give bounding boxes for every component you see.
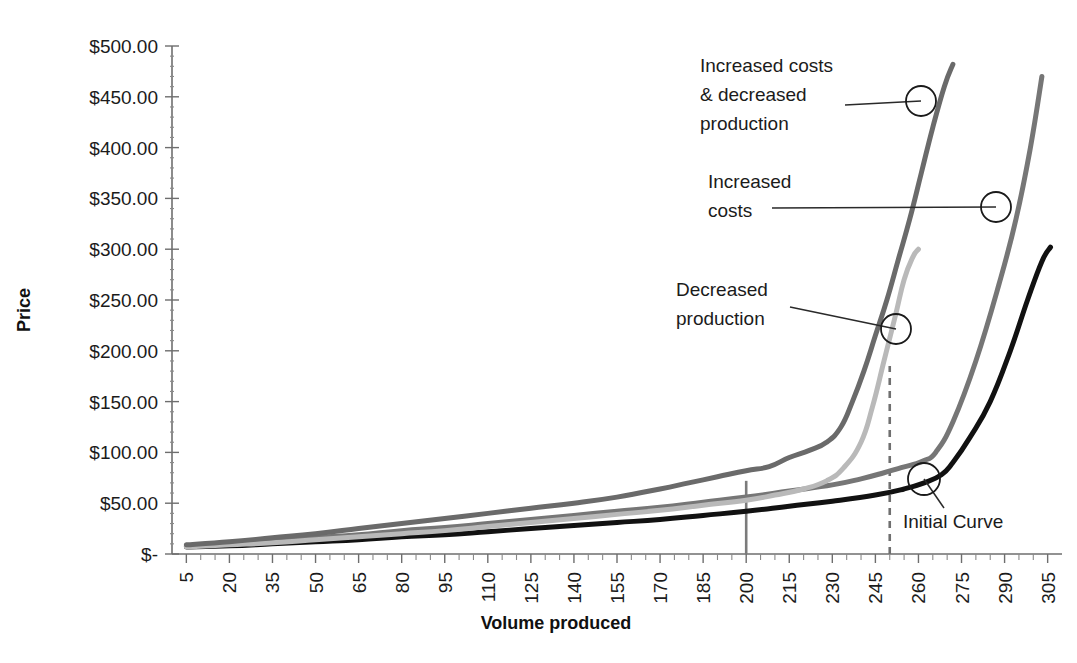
x-axis-tick-label: 230 xyxy=(822,572,843,604)
x-axis-tick-label: 170 xyxy=(650,572,671,604)
x-axis-tick-label: 215 xyxy=(779,572,800,604)
y-axis-tick-label: $150.00 xyxy=(89,392,158,413)
x-axis-tick-label: 50 xyxy=(306,572,327,593)
y-axis-tick-label: $100.00 xyxy=(89,442,158,463)
x-axis-tick-label: 80 xyxy=(392,572,413,593)
y-axis-tick-label: $350.00 xyxy=(89,188,158,209)
x-axis-tick-label: 155 xyxy=(607,572,628,604)
x-axis-tick-label: 95 xyxy=(435,572,456,593)
annotation-label: Initial Curve xyxy=(903,511,1003,532)
annotation-label: Decreased xyxy=(676,279,768,300)
annotation-leader-line xyxy=(772,207,996,208)
x-axis-tick-label: 260 xyxy=(908,572,929,604)
annotation-label: production xyxy=(676,308,765,329)
y-axis-title: Price xyxy=(14,288,34,332)
x-axis-tick-label: 125 xyxy=(521,572,542,604)
y-axis-tick-label: $400.00 xyxy=(89,138,158,159)
x-axis-tick-label: 200 xyxy=(736,572,757,604)
annotation-label: production xyxy=(700,113,789,134)
x-axis-tick-label: 5 xyxy=(176,572,197,583)
y-axis-tick-label: $50.00 xyxy=(100,493,158,514)
annotation-label: Increased costs xyxy=(700,55,833,76)
x-axis-tick-label: 305 xyxy=(1038,572,1059,604)
x-axis-tick-label: 185 xyxy=(693,572,714,604)
y-axis-tick-label: $500.00 xyxy=(89,36,158,57)
y-axis-tick-label: $300.00 xyxy=(89,239,158,260)
x-axis-tick-label: 35 xyxy=(262,572,283,593)
x-axis-tick-label: 140 xyxy=(564,572,585,604)
y-axis-tick-label: $450.00 xyxy=(89,87,158,108)
annotation-label: costs xyxy=(708,200,752,221)
price-volume-chart: $500.00$450.00$400.00$350.00$300.00$250.… xyxy=(0,0,1077,663)
y-axis-tick-label: $200.00 xyxy=(89,341,158,362)
annotation-label: & decreased xyxy=(700,84,807,105)
x-axis-tick-label: 65 xyxy=(349,572,370,593)
annotation-label: Increased xyxy=(708,171,791,192)
chart-container: $500.00$450.00$400.00$350.00$300.00$250.… xyxy=(0,0,1077,663)
x-axis-title: Volume produced xyxy=(481,613,632,633)
x-axis-tick-label: 290 xyxy=(995,572,1016,604)
x-axis-tick-label: 110 xyxy=(478,572,499,602)
y-axis-tick-label: $- xyxy=(141,544,158,565)
chart-background xyxy=(0,0,1077,663)
x-axis-tick-label: 275 xyxy=(952,572,973,604)
y-axis-tick-label: $250.00 xyxy=(89,290,158,311)
x-axis-tick-label: 20 xyxy=(219,572,240,593)
x-axis-tick-label: 245 xyxy=(865,572,886,604)
